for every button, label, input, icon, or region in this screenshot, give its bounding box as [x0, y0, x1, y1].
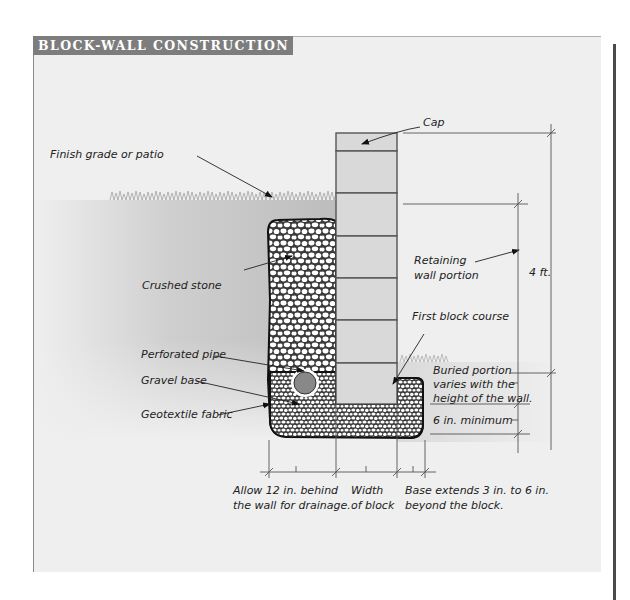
label-cap: Cap: [423, 116, 444, 130]
label-width-1: Width: [351, 484, 383, 498]
block-wall: [336, 133, 397, 404]
block-course-4: [336, 236, 397, 278]
block-course-2: [336, 320, 397, 363]
label-base-2: beyond the block.: [405, 499, 504, 513]
label-crushed-stone: Crushed stone: [142, 279, 222, 293]
label-finish-grade: Finish grade or patio: [50, 148, 164, 162]
label-buried-3: height of the wall.: [433, 392, 533, 406]
label-buried-2: varies with the: [433, 378, 515, 392]
label-allow-1: Allow 12 in. behind: [233, 484, 338, 498]
label-gravel-base: Gravel base: [141, 374, 207, 388]
label-allow-2: the wall for drainage.: [233, 499, 351, 513]
label-geotextile: Geotextile fabric: [141, 408, 233, 422]
label-base-1: Base extends 3 in. to 6 in.: [405, 484, 549, 498]
block-course-5: [336, 193, 397, 236]
grass-left: [110, 191, 338, 200]
block-course-3: [336, 278, 397, 320]
perforated-pipe: [291, 369, 319, 397]
label-first-course: First block course: [412, 310, 509, 324]
label-retaining-1: Retaining: [414, 254, 467, 268]
label-buried-1: Buried portion: [433, 364, 512, 378]
label-retaining-2: wall portion: [414, 269, 479, 283]
block-course-6: [336, 151, 397, 193]
label-width-2: of block: [351, 499, 394, 513]
block-course-1: [336, 363, 397, 404]
label-perforated-pipe: Perforated pipe: [141, 348, 226, 362]
label-height: 4 ft.: [529, 266, 551, 280]
label-six-in: 6 in. minimum: [433, 414, 513, 428]
